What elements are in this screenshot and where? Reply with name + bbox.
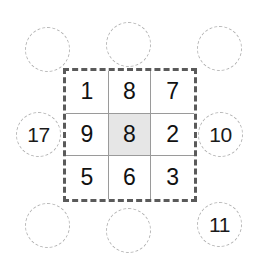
neighbor-circle-top-right xyxy=(197,26,242,71)
grid-cell-value-r2c2: 8 xyxy=(123,123,136,146)
neighbor-circle-top-left xyxy=(25,27,70,72)
neighbor-circle-middle-right: 10 xyxy=(198,112,243,157)
diagram-canvas: 17 10 11 1 8 7 9 8 xyxy=(0,0,255,260)
grid-cell-value-r3c1: 5 xyxy=(80,166,93,189)
grid-cell-value-r3c3: 3 xyxy=(166,166,179,189)
grid-cell-value-r2c3: 2 xyxy=(166,123,179,146)
grid-3x3: 1 8 7 9 8 2 5 6 3 xyxy=(66,71,194,199)
neighbor-circle-middle-left: 17 xyxy=(16,112,61,157)
grid-cell-value-r1c3: 7 xyxy=(166,80,179,103)
neighbor-label-middle-left: 17 xyxy=(27,124,49,145)
grid-outline: 1 8 7 9 8 2 5 6 3 xyxy=(63,68,197,202)
grid-cell-r3c3: 3 xyxy=(151,156,194,199)
grid-cell-r2c1: 9 xyxy=(66,114,109,157)
neighbor-circle-bottom-left xyxy=(25,203,70,248)
grid-cell-r3c2: 6 xyxy=(109,156,152,199)
grid-cell-r2c2-center-highlighted: 8 xyxy=(109,114,152,157)
grid-cell-value-r3c2: 6 xyxy=(123,166,136,189)
neighbor-label-bottom-right: 11 xyxy=(209,214,230,235)
neighbor-circle-bottom-center xyxy=(106,208,151,253)
grid-cell-r2c3: 2 xyxy=(151,114,194,157)
grid-cell-value-r1c1: 1 xyxy=(80,80,93,103)
grid-cell-r3c1: 5 xyxy=(66,156,109,199)
neighbor-circle-top-center xyxy=(106,22,151,67)
grid-cell-r1c1: 1 xyxy=(66,71,109,114)
grid-cell-r1c3: 7 xyxy=(151,71,194,114)
grid-cell-r1c2: 8 xyxy=(109,71,152,114)
grid-cell-value-r1c2: 8 xyxy=(123,80,136,103)
neighbor-circle-bottom-right: 11 xyxy=(197,202,242,247)
grid-cell-value-r2c1: 9 xyxy=(80,123,93,146)
neighbor-label-middle-right: 10 xyxy=(209,124,231,145)
